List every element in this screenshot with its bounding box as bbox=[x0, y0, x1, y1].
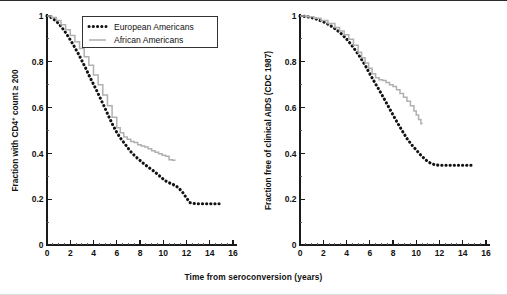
x-tick-label: 12 bbox=[435, 248, 445, 258]
x-tick-label: 16 bbox=[481, 248, 491, 258]
series-african-americans bbox=[300, 16, 422, 124]
x-tick-label: 0 bbox=[298, 248, 303, 258]
y-tick-label: 0.6 bbox=[32, 103, 44, 113]
y-tick-label: 0.8 bbox=[32, 57, 44, 67]
panel-cd4: 024681012141600.20.40.60.81Fraction with… bbox=[0, 1, 253, 295]
y-tick-label: 0 bbox=[292, 240, 297, 250]
x-tick-label: 12 bbox=[182, 248, 192, 258]
axis-lines bbox=[300, 14, 490, 245]
x-tick-label: 2 bbox=[321, 248, 326, 258]
y-axis-label: Fraction with CD4+ count ≥ 200 bbox=[9, 69, 20, 191]
y-tick-label: 0.4 bbox=[32, 149, 44, 159]
figure-container: 024681012141600.20.40.60.81Fraction with… bbox=[0, 0, 507, 295]
y-tick-label: 0.4 bbox=[285, 149, 297, 159]
x-tick-label: 6 bbox=[367, 248, 372, 258]
panel-aids: 024681012141600.20.40.60.81Fraction free… bbox=[253, 1, 506, 295]
x-tick-label: 10 bbox=[412, 248, 422, 258]
y-tick-label: 0.6 bbox=[285, 103, 297, 113]
legend-label: African Americans bbox=[114, 35, 183, 45]
x-tick-label: 4 bbox=[344, 248, 349, 258]
series-european-americans bbox=[300, 16, 474, 165]
x-tick-label: 4 bbox=[91, 248, 96, 258]
y-tick-label: 0 bbox=[39, 240, 44, 250]
x-tick-label: 16 bbox=[228, 248, 238, 258]
x-tick-label: 8 bbox=[138, 248, 143, 258]
panel-aids-plot: 024681012141600.20.40.60.81Fraction free… bbox=[253, 1, 506, 295]
x-tick-label: 10 bbox=[159, 248, 169, 258]
y-tick-label: 1 bbox=[292, 11, 297, 21]
y-axis-label: Fraction free of clinical AIDS (CDC 1987… bbox=[263, 51, 273, 210]
legend-label: European Americans bbox=[114, 22, 194, 32]
x-tick-label: 6 bbox=[114, 248, 119, 258]
y-tick-label: 1 bbox=[39, 11, 44, 21]
x-tick-label: 8 bbox=[391, 248, 396, 258]
x-tick-label: 14 bbox=[458, 248, 468, 258]
x-tick-label: 2 bbox=[68, 248, 73, 258]
x-tick-label: 0 bbox=[45, 248, 50, 258]
y-tick-label: 0.2 bbox=[32, 194, 44, 204]
x-tick-label: 14 bbox=[205, 248, 215, 258]
y-tick-label: 0.2 bbox=[285, 194, 297, 204]
panel-cd4-plot: 024681012141600.20.40.60.81Fraction with… bbox=[0, 1, 253, 295]
x-axis-label: Time from seroconversion (years) bbox=[0, 272, 507, 282]
y-tick-label: 0.8 bbox=[285, 57, 297, 67]
